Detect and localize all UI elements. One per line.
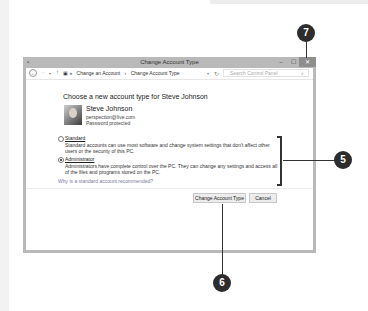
callout-5-leader-line <box>283 160 335 161</box>
address-bar: ← → ▾ ↑ ▣ » Change an Account › Change A… <box>26 68 313 80</box>
refresh-icon[interactable]: ↻ <box>214 70 219 77</box>
maximize-button[interactable]: ☐ <box>287 57 299 67</box>
breadcrumb-change-an-account[interactable]: Change an Account <box>77 70 121 76</box>
search-icon[interactable]: ⌕ <box>301 70 304 77</box>
user-avatar <box>64 105 82 125</box>
standard-radio[interactable] <box>58 136 64 142</box>
search-input[interactable]: Search Control Panel ⌕ <box>223 69 309 77</box>
up-arrow-icon[interactable]: ↑ <box>56 69 59 75</box>
breadcrumb-change-account-type[interactable]: Change Account Type <box>131 70 180 76</box>
administrator-label[interactable]: Administrator <box>65 156 94 162</box>
recent-locations-dropdown-icon[interactable]: ▾ <box>49 71 51 76</box>
forward-arrow-icon[interactable]: → <box>40 69 46 75</box>
callout-6-leader-line <box>222 204 223 275</box>
breadcrumb: ▣ » Change an Account › Change Account T… <box>63 70 183 76</box>
window-title: Change Account Type <box>23 59 316 65</box>
cancel-button[interactable]: Cancel <box>249 193 277 203</box>
administrator-description: Administrators have complete control ove… <box>65 163 280 175</box>
change-account-type-window: ▪ Change Account Type – ☐ ✕ ← → ▾ ↑ ▣ » … <box>23 57 316 253</box>
administrator-radio[interactable] <box>58 157 64 163</box>
user-password-status: Password protected <box>86 120 130 126</box>
page-top-strip <box>210 0 368 4</box>
control-panel-icon[interactable]: ▣ » <box>63 70 72 76</box>
breadcrumb-separator-icon[interactable]: › <box>125 70 127 76</box>
callout-6: 6 <box>213 274 231 292</box>
why-standard-account-link[interactable]: Why is a standard account recommended? <box>58 178 153 184</box>
callout-7-leader-line <box>306 41 307 58</box>
window-client-area: ← → ▾ ↑ ▣ » Change an Account › Change A… <box>26 68 313 250</box>
back-arrow-icon[interactable]: ← <box>29 69 37 77</box>
page-margin-strip <box>0 0 9 311</box>
callout-7: 7 <box>297 24 315 42</box>
callout-5: 5 <box>334 151 352 169</box>
close-button[interactable]: ✕ <box>299 57 316 67</box>
standard-label[interactable]: Standard <box>65 135 85 141</box>
footer-divider <box>26 188 313 189</box>
standard-description: Standard accounts can use most software … <box>65 142 280 154</box>
user-name: Steve Johnson <box>86 105 132 112</box>
change-account-type-button[interactable]: Change Account Type <box>193 193 246 203</box>
address-dropdown-icon[interactable]: ▾ <box>207 71 209 76</box>
options-bracket <box>277 136 282 186</box>
minimize-button[interactable]: – <box>275 57 287 67</box>
page-heading: Choose a new account type for Steve John… <box>63 93 208 100</box>
title-bar[interactable]: ▪ Change Account Type – ☐ ✕ <box>23 57 316 68</box>
search-placeholder: Search Control Panel <box>230 70 278 76</box>
